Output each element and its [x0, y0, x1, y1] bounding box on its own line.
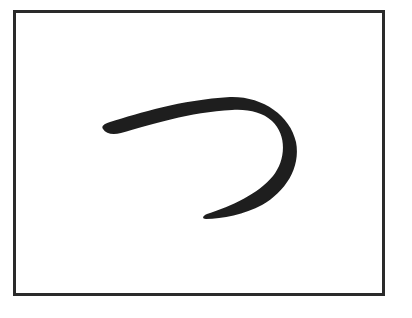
tsu-brush-stroke-icon [0, 0, 412, 318]
brush-stroke [102, 97, 297, 219]
